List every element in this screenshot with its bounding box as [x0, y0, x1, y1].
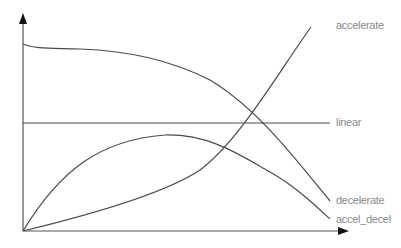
label-accelerate: accelerate: [336, 19, 384, 31]
y-axis-arrow-icon: [19, 13, 27, 24]
curve-accelerate: [23, 27, 311, 231]
x-axis-arrow-icon: [338, 227, 349, 235]
label-accel-decel: accel_decel: [336, 213, 391, 225]
label-decelerate: decelerate: [336, 194, 384, 206]
label-linear: linear: [336, 116, 361, 128]
